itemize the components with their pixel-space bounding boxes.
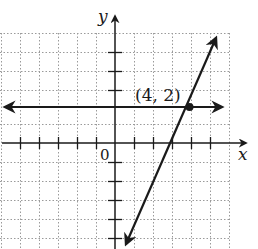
slanted-line [126,38,216,244]
point-label: (4, 2) [135,85,181,105]
x-axis-label: x [238,144,248,164]
intersection-point [186,103,194,111]
y-axis-label: y [97,6,108,26]
origin-label: 0 [100,146,110,164]
coordinate-plane: (4, 2) x y 0 [0,0,258,249]
